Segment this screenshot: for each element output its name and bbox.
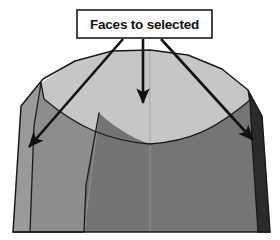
diagram-svg: Faces to selected (0, 0, 280, 240)
callout-label: Faces to selected (90, 17, 199, 32)
diagram-canvas: Faces to selected (0, 0, 280, 240)
callout-box: Faces to selected (77, 10, 212, 38)
extruded-arch-solid (13, 50, 270, 232)
